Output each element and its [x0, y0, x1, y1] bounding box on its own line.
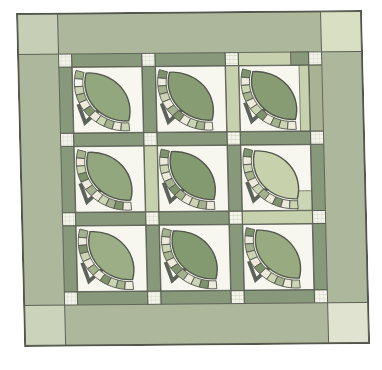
sashing-strip-v: [59, 67, 74, 133]
sashing-strip-h: [72, 53, 143, 67]
sashing-strip-h: [77, 291, 148, 305]
sashing-cornerstone: [231, 291, 244, 304]
sashing-strip-h: [242, 211, 313, 225]
quilt-block: [243, 224, 314, 290]
sashing-strip-v: [146, 225, 161, 291]
arc-key-patch: [123, 202, 132, 210]
sashing-strip-v: [229, 224, 244, 290]
quilt-svg: [16, 10, 370, 347]
quilt-block: [74, 146, 145, 212]
sashing-strip-h: [159, 211, 230, 225]
border-corner-square-tl: [18, 14, 59, 54]
sashing-cornerstone: [64, 292, 77, 305]
sashing-cornerstone: [62, 213, 75, 226]
arc-key-patch: [289, 201, 298, 209]
sashing-strip-h: [155, 53, 226, 67]
sashing-cornerstone: [60, 133, 73, 146]
block-corner-patch: [297, 191, 312, 211]
sashing-cornerstone: [142, 53, 155, 66]
sashing-strip-h: [157, 132, 228, 146]
sashing-strip-h: [244, 290, 315, 304]
quilt-block: [76, 225, 147, 291]
sashing-strip-h: [75, 212, 146, 226]
quilt-block: [72, 67, 143, 133]
sashing-cornerstone: [312, 210, 325, 223]
border-corner-square-bl: [25, 305, 66, 345]
arc-key-patch: [291, 280, 300, 288]
arc-key-patch: [125, 281, 134, 289]
sashing-strip-v: [61, 146, 76, 212]
arc-key-patch: [78, 237, 87, 245]
arc-key-patch: [245, 236, 254, 244]
sashing-strip-h: [73, 133, 144, 147]
arc-key-patch: [161, 236, 170, 244]
sashing-strip-h-endpiece: [291, 52, 309, 65]
sashing-strip-v: [144, 146, 159, 212]
sashing-cornerstone: [59, 54, 72, 67]
sashing-strip-v: [309, 65, 324, 131]
arc-key-patch: [76, 158, 85, 166]
arc-key-patch: [121, 123, 130, 131]
sashing-strip-v: [142, 66, 157, 132]
quilt-block: [159, 225, 230, 291]
arc-key-patch: [243, 156, 252, 164]
sashing-strip-h: [161, 291, 232, 305]
sashing-strip-v: [63, 226, 78, 292]
block-edge-strip: [299, 65, 310, 131]
quilt-illustration: [16, 10, 370, 347]
quilt-block: [239, 65, 310, 131]
sashing-cornerstone: [148, 291, 161, 304]
arc-key-patch: [204, 122, 213, 130]
sashing-cornerstone: [309, 52, 322, 65]
sashing-cornerstone: [227, 132, 240, 145]
sashing-cornerstone: [225, 53, 238, 66]
arc-key-patch: [208, 281, 217, 289]
border-corner-square-br: [328, 302, 369, 342]
quilt-block: [156, 66, 227, 132]
arc-key-patch: [159, 157, 168, 165]
arc-key-patch: [206, 201, 215, 209]
sashing-cornerstone: [146, 212, 159, 225]
arc-key-patch: [287, 121, 296, 129]
arc-key-patch: [241, 77, 250, 85]
border-corner-square-tr: [321, 11, 362, 51]
arc-key-patch: [158, 78, 167, 86]
quilt-block: [158, 145, 229, 211]
sashing-strip-v: [313, 223, 328, 289]
sashing-strip-v: [311, 144, 326, 210]
sashing-cornerstone: [314, 290, 327, 303]
quilt-block: [241, 145, 312, 211]
sashing-strip-v: [227, 145, 242, 211]
sashing-cornerstone: [144, 133, 157, 146]
arc-key-patch: [74, 79, 83, 87]
sashing-cornerstone: [229, 211, 242, 224]
sashing-strip-h: [240, 131, 311, 145]
page-background: [0, 0, 382, 370]
sashing-cornerstone: [310, 131, 323, 144]
sashing-strip-v: [225, 66, 240, 132]
